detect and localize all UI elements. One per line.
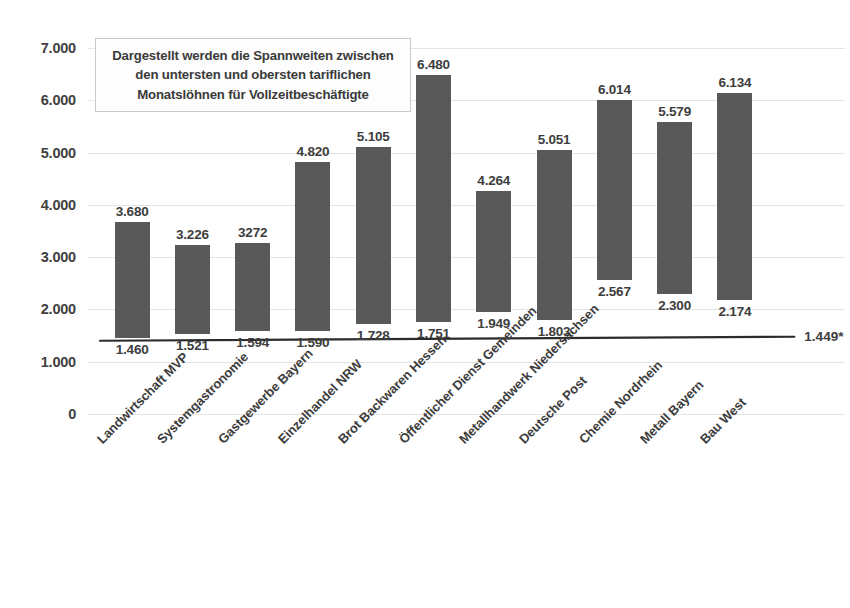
range-bar [537,150,572,320]
y-axis-tick-label: 2.000 [6,301,76,317]
annotation-box: Dargestellt werden die Spannweiten zwisc… [95,38,411,112]
range-bar-chart: 01.0002.0003.0004.0005.0006.0007.000 3.6… [0,0,850,608]
y-axis-tick-label: 3.000 [6,249,76,265]
gridline [88,362,845,363]
bar-upper-value-label: 5.579 [658,104,691,119]
y-axis: 01.0002.0003.0004.0005.0006.0007.000 [0,45,76,417]
bar-upper-value-label: 4.820 [297,144,330,159]
bar-lower-value-label: 2.174 [718,304,751,319]
bar-lower-value-label: 2.567 [598,284,631,299]
range-bar [295,162,330,331]
y-axis-tick-label: 6.000 [6,92,76,108]
reference-line-end-label: 1.449* [804,329,843,344]
bar-upper-value-label: 3.226 [176,227,209,242]
annotation-line: Dargestellt werden die Spannweiten zwisc… [112,46,394,65]
y-axis-tick-label: 0 [6,406,76,422]
bar-upper-value-label: 6.014 [598,82,631,97]
range-bar [115,222,150,338]
range-bar [416,75,451,322]
y-axis-tick-label: 4.000 [6,197,76,213]
bar-upper-value-label: 3.680 [116,204,149,219]
bar-lower-value-label: 2.300 [658,298,691,313]
bar-upper-value-label: 4.264 [477,173,510,188]
range-bar [175,245,210,334]
range-bar [356,147,391,324]
y-axis-tick-label: 7.000 [6,40,76,56]
bar-upper-value-label: 3272 [238,225,267,240]
bar-upper-value-label: 5.105 [357,129,390,144]
range-bar [597,100,632,280]
bar-upper-value-label: 6.134 [718,75,751,90]
range-bar [717,93,752,300]
bar-upper-value-label: 6.480 [417,57,450,72]
y-axis-tick-label: 5.000 [6,145,76,161]
y-axis-tick-label: 1.000 [6,354,76,370]
range-bar [235,243,270,331]
range-bar [657,122,692,293]
range-bar [476,191,511,312]
annotation-line: den untersten und obersten tariflichen [135,65,370,84]
bar-lower-value-label: 1.728 [357,328,390,343]
bar-upper-value-label: 5.051 [538,132,571,147]
bar-lower-value-label: 1.594 [236,335,269,350]
x-axis-category-labels: Landwirtschaft MVPSystemgastronomieGastg… [0,430,850,608]
bar-lower-value-label: 1.460 [116,342,149,357]
annotation-line: Monatslöhnen für Vollzeitbeschäftigte [137,85,369,104]
